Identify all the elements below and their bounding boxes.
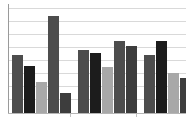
gridline-0 [8,8,186,9]
bar-g0-s3[interactable] [48,16,59,113]
x-tick-0 [70,114,71,117]
bar-g1-s4[interactable] [126,46,137,113]
bar-g0-s2[interactable] [36,82,47,113]
gridline-2 [8,34,186,35]
bar-g1-s0[interactable] [78,50,89,113]
bar-g0-s1[interactable] [24,66,35,113]
bar-g2-s3[interactable] [180,78,186,113]
bar-g2-s1[interactable] [156,41,167,113]
bar-g2-s0[interactable] [144,55,155,113]
x-tick-1 [136,114,137,117]
bar-g0-s4[interactable] [60,93,71,113]
bar-chart [0,0,186,125]
bar-g1-s3[interactable] [114,41,125,113]
gridline-1 [8,21,186,22]
bar-g1-s2[interactable] [102,67,113,113]
bar-g0-s0[interactable] [12,55,23,113]
bar-g2-s2[interactable] [168,73,179,113]
x-axis-line [8,113,186,114]
y-axis-line [8,4,9,114]
plot-area [0,0,186,125]
bar-g1-s1[interactable] [90,53,101,113]
